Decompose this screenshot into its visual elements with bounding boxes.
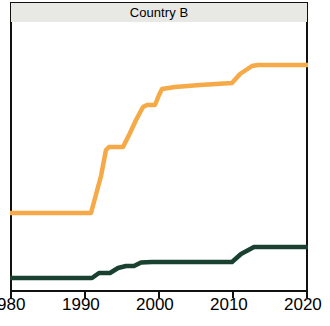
chart-panel: Country B 980 1990 2000 2010 2020 bbox=[0, 0, 330, 326]
x-axis-label-2000: 2000 bbox=[136, 296, 174, 313]
x-axis-label-group: 980 1990 2000 2010 2020 bbox=[0, 296, 330, 320]
plot-svg bbox=[0, 0, 330, 326]
x-axis-label-1980: 980 bbox=[0, 296, 25, 313]
x-axis-label-1990: 1990 bbox=[62, 296, 100, 313]
x-axis-label-2020: 2020 bbox=[284, 296, 322, 313]
series-line-green bbox=[10, 247, 308, 278]
x-axis-label-2010: 2010 bbox=[210, 296, 248, 313]
series-line-orange bbox=[10, 65, 308, 213]
